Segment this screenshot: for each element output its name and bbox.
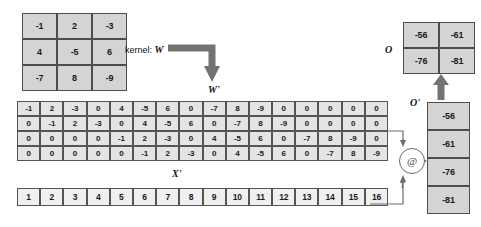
o-cell: -81: [439, 48, 475, 74]
wprime-cell: 0: [17, 146, 40, 161]
wprime-cell: -3: [179, 146, 202, 161]
wprime-cell: 0: [342, 101, 365, 116]
kernel-cell: 4: [22, 39, 57, 65]
wprime-cell: 6: [156, 101, 179, 116]
wprime-cell: 0: [203, 146, 226, 161]
wprime-cell: 6: [249, 131, 272, 146]
xprime-cell: 10: [226, 188, 249, 206]
wprime-cell: -5: [156, 116, 179, 131]
wprime-cell: -7: [295, 131, 318, 146]
kernel-cell: -9: [92, 65, 127, 91]
wprime-cell: 4: [133, 116, 156, 131]
oprime-vector: -56 -61 -76 -81: [427, 102, 470, 214]
wprime-label: W': [208, 84, 220, 95]
o-matrix: -56 -61 -76 -81: [403, 22, 475, 74]
wprime-cell: 0: [63, 146, 86, 161]
kernel-label-prefix: kernel:: [125, 45, 155, 55]
wprime-cell: 0: [17, 131, 40, 146]
wprime-cell: -1: [40, 116, 63, 131]
wprime-matrix: -1 2 -3 0 4 -5 6 0 -7 8 -9 0 0 0 0 0 0 -…: [17, 101, 388, 161]
wprime-cell: -5: [249, 146, 272, 161]
kernel-to-wprime-arrow-icon: [168, 44, 228, 86]
wprime-cell: 0: [63, 131, 86, 146]
kernel-cell: -3: [92, 13, 127, 39]
wprime-cell: 6: [272, 146, 295, 161]
wprime-cell: 0: [40, 131, 63, 146]
wprime-cell: -9: [272, 116, 295, 131]
wprime-cell: 0: [179, 101, 202, 116]
kernel-cell: 8: [57, 65, 92, 91]
wprime-cell: -9: [249, 101, 272, 116]
oprime-cell: -56: [427, 102, 470, 130]
wprime-cell: 0: [87, 131, 110, 146]
wprime-cell: 0: [110, 116, 133, 131]
wprime-cell: 0: [295, 146, 318, 161]
kernel-matrix: -1 2 -3 4 -5 6 -7 8 -9: [22, 13, 127, 91]
wprime-cell: 0: [110, 146, 133, 161]
wprime-cell: 0: [272, 131, 295, 146]
wprime-cell: 0: [87, 101, 110, 116]
o-cell: -76: [403, 48, 439, 74]
wprime-cell: 0: [17, 116, 40, 131]
oprime-cell: -61: [427, 130, 470, 158]
oprime-cell: -81: [427, 186, 470, 214]
wprime-cell: 0: [272, 101, 295, 116]
xprime-vector: 1 2 3 4 5 6 7 8 9 10 11 12 13 14 15 16: [17, 188, 388, 206]
wprime-cell: 0: [295, 116, 318, 131]
wprime-cell: -1: [110, 131, 133, 146]
wprime-cell: 0: [295, 101, 318, 116]
wprime-cell: -3: [87, 116, 110, 131]
wprime-cell: -5: [133, 101, 156, 116]
o-cell: -56: [403, 22, 439, 48]
wprime-cell: 6: [179, 116, 202, 131]
kernel-label: kernel: W: [125, 44, 163, 55]
diagram-canvas: -1 2 -3 4 -5 6 -7 8 -9 kernel: W W' -1 2…: [0, 0, 481, 227]
wprime-cell: 0: [87, 146, 110, 161]
wprime-cell: 4: [203, 131, 226, 146]
wprime-cell: 0: [179, 131, 202, 146]
wprime-cell: 8: [226, 101, 249, 116]
wprime-cell: 2: [40, 101, 63, 116]
wprime-cell: 0: [203, 116, 226, 131]
wprime-cell: -1: [133, 146, 156, 161]
xprime-cell: 11: [249, 188, 272, 206]
o-label: O: [385, 44, 392, 55]
wprime-cell: -5: [226, 131, 249, 146]
oprime-to-o-arrow-icon: [432, 74, 450, 100]
wprime-cell: 8: [249, 116, 272, 131]
wprime-cell: -9: [342, 131, 365, 146]
wprime-cell: 0: [318, 116, 341, 131]
xprime-cell: 7: [156, 188, 179, 206]
matmul-operator: @: [399, 148, 425, 174]
wprime-cell: 0: [342, 116, 365, 131]
kernel-symbol: W: [155, 44, 164, 55]
xprime-cell: 13: [295, 188, 318, 206]
wprime-cell: 2: [63, 116, 86, 131]
xprime-cell: 8: [179, 188, 202, 206]
kernel-cell: -1: [22, 13, 57, 39]
wprime-cell: -3: [63, 101, 86, 116]
kernel-cell: 2: [57, 13, 92, 39]
o-cell: -61: [439, 22, 475, 48]
wprime-cell: 4: [110, 101, 133, 116]
xprime-cell: 14: [318, 188, 341, 206]
xprime-cell: 6: [133, 188, 156, 206]
oprime-label: O': [410, 97, 420, 108]
xprime-cell: 9: [203, 188, 226, 206]
wprime-cell: 0: [40, 146, 63, 161]
xprime-cell: 1: [17, 188, 40, 206]
xprime-cell: 15: [342, 188, 365, 206]
xprime-label: X': [172, 168, 181, 179]
wprime-cell: 0: [318, 101, 341, 116]
wprime-cell: 8: [342, 146, 365, 161]
wprime-cell: 2: [156, 146, 179, 161]
wprime-cell: -1: [17, 101, 40, 116]
wprime-cell: -7: [318, 146, 341, 161]
xprime-cell: 4: [87, 188, 110, 206]
xprime-cell: 12: [272, 188, 295, 206]
wprime-cell: -7: [226, 116, 249, 131]
kernel-cell: -7: [22, 65, 57, 91]
oprime-cell: -76: [427, 158, 470, 186]
xprime-cell: 2: [40, 188, 63, 206]
wprime-cell: 4: [226, 146, 249, 161]
